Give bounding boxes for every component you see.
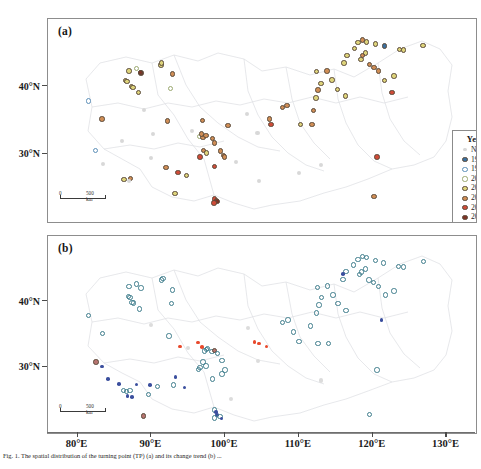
data-point [341, 60, 346, 65]
data-point [268, 122, 273, 127]
data-point [203, 133, 208, 138]
data-point [170, 287, 175, 292]
scale-bar-length-a: 500 km [86, 190, 94, 202]
data-point [126, 68, 131, 73]
data-point [166, 333, 171, 338]
data-point [315, 87, 320, 92]
legend-marker-icon [459, 194, 471, 201]
legend-item-label: 2002 [471, 175, 477, 183]
data-point [190, 129, 194, 133]
data-point [170, 71, 175, 76]
y-axis-tick-label: 40°N [19, 80, 40, 91]
legend-a-item[interactable]: 2005 [453, 203, 477, 213]
data-point [148, 383, 152, 387]
data-point [172, 191, 177, 196]
legend-marker-icon [459, 184, 471, 191]
x-axis-tick-label: 80°E [66, 438, 88, 449]
x-axis-tick-label: 110°E [285, 438, 311, 449]
data-point [391, 288, 396, 293]
y-axis-tick-mark [42, 300, 47, 301]
legend-a-item[interactable]: 2003 [453, 184, 477, 194]
legend-a-item[interactable]: 1994 [453, 155, 477, 165]
data-point [284, 103, 289, 108]
data-point [186, 346, 190, 350]
legend-a-item[interactable]: 2007 [453, 213, 477, 223]
data-point [165, 118, 170, 123]
legend-marker-icon [459, 204, 471, 211]
data-point [351, 262, 356, 267]
data-point [163, 165, 168, 170]
data-point [382, 43, 387, 48]
data-point [314, 310, 319, 315]
data-point [371, 194, 376, 199]
data-point [318, 81, 323, 86]
x-axis-tick-mark [445, 432, 446, 437]
data-point [373, 41, 378, 46]
y-axis-tick-label: 40°N [19, 295, 40, 306]
data-point [316, 302, 321, 307]
data-point [178, 345, 182, 349]
data-point [126, 284, 131, 289]
data-point [319, 378, 323, 382]
data-point [159, 60, 164, 65]
legend-item-label: 1996 [471, 165, 477, 173]
legend-marker-icon [459, 165, 471, 172]
data-point [358, 57, 363, 62]
legend-item-label: 2004 [471, 194, 477, 202]
map-panel-a: (a) 0 500 km Year of TP No TP19941996200… [47, 18, 477, 223]
data-point [212, 140, 217, 145]
data-point [335, 301, 340, 306]
x-axis-tick-mark [150, 432, 151, 437]
x-axis-tick-mark [77, 432, 78, 437]
x-axis-tick-label: 100°E [211, 438, 238, 449]
figure-caption: Fig. 1. The spatial distribution of the … [3, 452, 479, 460]
data-point [219, 371, 224, 376]
data-point [117, 382, 121, 386]
legend-marker-icon [459, 156, 471, 163]
data-point [130, 85, 135, 90]
data-point [155, 384, 160, 389]
data-point [93, 359, 98, 364]
x-axis-tick-label: 90°E [139, 438, 161, 449]
legend-a-item[interactable]: 1996 [453, 165, 477, 175]
legend-a-item[interactable]: 2002 [453, 174, 477, 184]
data-point [374, 154, 379, 159]
data-point [200, 118, 205, 123]
legend-a-item[interactable]: 2004 [453, 193, 477, 203]
legend-marker-icon [459, 146, 471, 151]
data-point [389, 90, 394, 95]
data-point [343, 93, 348, 98]
y-axis-tick-mark [42, 85, 47, 86]
data-point [130, 395, 134, 399]
data-point [171, 382, 176, 387]
data-point [257, 179, 261, 183]
x-axis-line [47, 432, 475, 433]
legend-item-label: 1994 [471, 156, 477, 164]
data-point [210, 376, 215, 381]
data-point [197, 154, 202, 159]
data-point [204, 150, 209, 155]
legend-item-label: 2003 [471, 184, 477, 192]
data-point [296, 339, 301, 344]
data-point [222, 154, 227, 159]
x-axis-tick-label: 120°E [358, 438, 385, 449]
legend-marker-icon [459, 213, 471, 220]
data-point [420, 43, 425, 48]
china-outline-a [48, 19, 476, 222]
data-point [374, 367, 379, 372]
data-point [138, 285, 143, 290]
data-point [401, 264, 406, 269]
data-point [391, 73, 396, 78]
x-axis-tick-mark [224, 432, 225, 437]
legend-a-title: Year of TP [453, 131, 477, 146]
x-axis-tick-mark [298, 432, 299, 437]
data-point [324, 68, 329, 73]
legend-a-item[interactable]: No TP [453, 146, 477, 156]
data-point [309, 122, 314, 127]
data-point [253, 340, 257, 344]
x-axis-tick-label: 130°E [432, 438, 459, 449]
data-point [343, 308, 348, 313]
data-point [340, 277, 345, 282]
figure-root: (a) 0 500 km Year of TP No TP19941996200… [0, 0, 481, 469]
legend-item-label: No TP [471, 146, 477, 154]
